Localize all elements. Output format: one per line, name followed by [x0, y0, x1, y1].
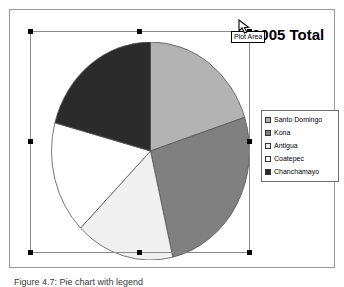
- plot-area-tooltip: Plot Area: [231, 31, 265, 43]
- legend-label-antigua: Antigua: [274, 142, 298, 150]
- plot-area-selection[interactable]: [30, 31, 250, 253]
- resize-handle-middle-left[interactable]: [28, 139, 33, 144]
- legend-label-kona: Kona: [274, 129, 290, 137]
- resize-handle-top-left[interactable]: [28, 29, 33, 34]
- legend-label-chanchamayo: Chanchamayo: [274, 168, 319, 176]
- legend-item-antigua[interactable]: Antigua: [265, 140, 336, 152]
- legend-label-santo-domingo: Santo Domingo: [274, 116, 322, 124]
- resize-handle-top-center[interactable]: [137, 29, 142, 34]
- legend-item-kona[interactable]: Kona: [265, 127, 336, 139]
- legend-swatch-chanchamayo: [265, 169, 271, 175]
- resize-handle-bottom-left[interactable]: [28, 250, 33, 255]
- legend-label-coatepec: Coatepec: [274, 155, 304, 163]
- chart-legend[interactable]: Santo Domingo Kona Antigua Coatepec Chan…: [261, 110, 339, 182]
- legend-swatch-santo-domingo: [265, 117, 271, 123]
- resize-handle-bottom-center[interactable]: [137, 250, 142, 255]
- legend-swatch-kona: [265, 130, 271, 136]
- legend-swatch-antigua: [265, 143, 271, 149]
- legend-swatch-coatepec: [265, 156, 271, 162]
- resize-handle-middle-right[interactable]: [247, 139, 252, 144]
- sheet-caption: Figure 4.7: Pie chart with legend: [14, 277, 143, 287]
- legend-item-coatepec[interactable]: Coatepec: [265, 153, 336, 165]
- legend-item-santo-domingo[interactable]: Santo Domingo: [265, 114, 336, 126]
- resize-handle-bottom-right[interactable]: [247, 250, 252, 255]
- legend-item-chanchamayo[interactable]: Chanchamayo: [265, 166, 336, 178]
- spreadsheet-canvas: 2005 Total Santo Domingo Kona Antigua Co…: [0, 0, 344, 287]
